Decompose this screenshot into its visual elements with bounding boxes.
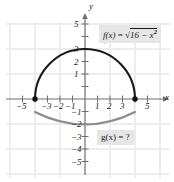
- y-tick-5: 5: [74, 20, 79, 29]
- endpoint-dot-right: [132, 96, 137, 101]
- equation-f-arg: (x): [106, 30, 116, 40]
- y-tick-neg4: −4: [71, 145, 82, 154]
- equation-label-g: g(x) = ?: [97, 130, 134, 145]
- y-tick-neg2: −2: [71, 120, 82, 129]
- y-tick-neg1: −1: [71, 108, 82, 117]
- x-tick-1: 1: [95, 102, 100, 111]
- x-tick-neg3: −3: [41, 102, 52, 111]
- x-axis-label: x: [165, 93, 169, 102]
- endpoint-dot-left: [32, 96, 37, 101]
- grid-lines: [6, 22, 170, 178]
- y-tick-2: 2: [74, 58, 79, 67]
- y-tick-3: 3: [74, 45, 79, 54]
- x-tick-neg5: −5: [16, 102, 27, 111]
- radical-sign: √16 − x2: [125, 28, 157, 40]
- y-tick-neg5: −5: [71, 158, 82, 167]
- x-tick-2: 2: [107, 102, 112, 111]
- equation-label-f: f(x) = √16 − x2: [99, 25, 161, 43]
- equation-f-exponent: 2: [154, 28, 157, 35]
- y-axis-label: y: [89, 2, 93, 11]
- radical-bar: [130, 28, 157, 29]
- equation-f-radicand: 16 − x: [130, 30, 154, 40]
- x-tick-neg2: −2: [53, 102, 64, 111]
- y-tick-1: 1: [74, 70, 79, 79]
- x-tick-3: 3: [120, 102, 125, 111]
- graph-figure: y x −5 −3 −2 −1 1 2 3 5 5 3 2 1 −1 −2 −3…: [0, 0, 174, 182]
- y-axis-arrow: [82, 13, 88, 19]
- y-tick-neg3: −3: [71, 133, 82, 142]
- x-tick-5: 5: [145, 102, 150, 111]
- equation-f-equals: =: [118, 30, 123, 40]
